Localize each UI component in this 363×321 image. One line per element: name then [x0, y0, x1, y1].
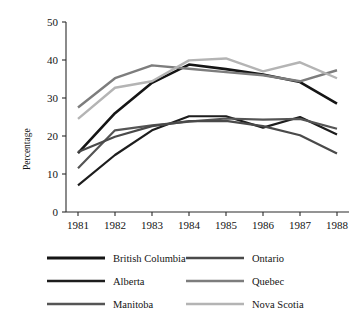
x-tick-label: 1987 — [289, 219, 312, 231]
x-tick-label: 1988 — [326, 219, 349, 231]
x-axis-tick-labels: 19811982198319841985198619871988 — [67, 219, 349, 231]
plot-area: 01020304050 1981198219831984198519861987… — [47, 16, 349, 231]
legend-label-ontario: Ontario — [252, 253, 284, 264]
x-tick-label: 1984 — [178, 219, 201, 231]
x-tick-label: 1986 — [252, 219, 275, 231]
series-line-ontario — [78, 121, 337, 154]
line-chart-figure: 01020304050 1981198219831984198519861987… — [0, 0, 363, 321]
x-tick-label: 1982 — [104, 219, 126, 231]
y-tick-label: 50 — [47, 16, 59, 28]
series-line-manitoba — [78, 119, 337, 169]
x-tick-label: 1981 — [67, 219, 89, 231]
series-line-alberta — [78, 116, 337, 185]
chart-canvas: 01020304050 1981198219831984198519861987… — [0, 0, 363, 321]
legend-label-manitoba: Manitoba — [113, 299, 154, 310]
chart-legend: British ColumbiaOntarioAlbertaQuebecMani… — [47, 253, 304, 310]
series-lines — [78, 58, 337, 185]
legend-label-nova-scotia: Nova Scotia — [252, 299, 304, 310]
y-tick-label: 10 — [47, 168, 59, 180]
y-axis-title: Percentage — [22, 128, 32, 170]
y-axis-tick-labels: 01020304050 — [47, 16, 59, 218]
x-tick-label: 1983 — [141, 219, 164, 231]
y-tick-label: 20 — [47, 130, 59, 142]
x-axis-ticks — [78, 212, 337, 216]
legend-label-quebec: Quebec — [252, 276, 284, 287]
legend-label-british-columbia: British Columbia — [113, 253, 186, 264]
y-tick-label: 40 — [47, 54, 59, 66]
legend-label-alberta: Alberta — [113, 276, 145, 287]
x-tick-label: 1985 — [215, 219, 238, 231]
y-axis-ticks — [62, 22, 66, 212]
y-tick-label: 0 — [53, 206, 59, 218]
y-tick-label: 30 — [47, 92, 59, 104]
